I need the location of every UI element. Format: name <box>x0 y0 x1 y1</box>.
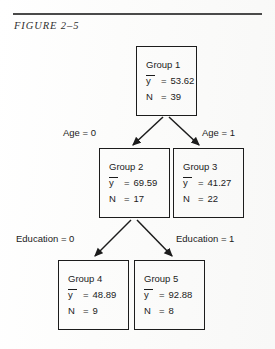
edge-label-education-1: Education = 1 <box>176 233 234 244</box>
equals-sign: = <box>83 306 89 316</box>
equals-sign: = <box>159 290 165 300</box>
node-group-4-title: Group 4 <box>68 274 102 284</box>
count-symbol: N <box>183 194 192 204</box>
node-group-4-n: N = 9 <box>68 306 98 316</box>
node-group-1[interactable]: Group 1 y = 53.62 N = 39 <box>136 46 197 116</box>
equals-sign: = <box>161 76 167 86</box>
node-group-1-n: N = 39 <box>146 92 181 102</box>
node-group-3-title: Group 3 <box>183 162 217 172</box>
edge-g2-g5 <box>137 220 172 256</box>
node-group-1-mean: y = 53.62 <box>146 76 194 86</box>
count-symbol: N <box>144 306 153 316</box>
mean-symbol: y <box>146 76 155 86</box>
node-group-1-mean-value: 53.62 <box>171 76 195 86</box>
equals-sign: = <box>124 178 130 188</box>
node-group-2-title: Group 2 <box>109 162 143 172</box>
equals-sign: = <box>159 306 165 316</box>
figure-page: FIGURE 2–5 Group 1 y = 53.62 N = 39 Grou… <box>0 0 275 349</box>
edge-g1-g2 <box>133 117 163 145</box>
equals-sign: = <box>161 92 167 102</box>
node-group-4-n-value: 9 <box>93 306 98 316</box>
edge-label-age-0: Age = 0 <box>63 127 96 138</box>
node-group-2[interactable]: Group 2 y = 69.59 N = 17 <box>99 148 170 218</box>
node-group-5-n: N = 8 <box>144 306 174 316</box>
edge-label-education-0: Education = 0 <box>16 233 74 244</box>
edge-label-age-1: Age = 1 <box>202 127 235 138</box>
mean-symbol: y <box>68 290 77 300</box>
node-group-5[interactable]: Group 5 y = 92.88 N = 8 <box>134 260 205 330</box>
count-symbol: N <box>146 92 155 102</box>
node-group-3-mean-value: 41.27 <box>208 178 232 188</box>
node-group-1-title: Group 1 <box>146 60 180 70</box>
node-group-4-mean: y = 48.89 <box>68 290 116 300</box>
node-group-5-n-value: 8 <box>169 306 174 316</box>
equals-sign: = <box>124 194 130 204</box>
node-group-2-n: N = 17 <box>109 194 144 204</box>
node-group-4[interactable]: Group 4 y = 48.89 N = 9 <box>58 260 129 330</box>
node-group-5-mean-value: 92.88 <box>169 290 193 300</box>
node-group-2-n-value: 17 <box>134 194 145 204</box>
node-group-3-n: N = 22 <box>183 194 218 204</box>
node-group-1-n-value: 39 <box>171 92 182 102</box>
mean-symbol: y <box>144 290 153 300</box>
node-group-3[interactable]: Group 3 y = 41.27 N = 22 <box>173 148 244 218</box>
mean-symbol: y <box>183 178 192 188</box>
figure-caption: FIGURE 2–5 <box>14 20 79 31</box>
mean-symbol: y <box>109 178 118 188</box>
node-group-2-mean-value: 69.59 <box>134 178 158 188</box>
node-group-5-title: Group 5 <box>144 274 178 284</box>
equals-sign: = <box>198 194 204 204</box>
node-group-3-mean: y = 41.27 <box>183 178 231 188</box>
node-group-4-mean-value: 48.89 <box>93 290 117 300</box>
figure-top-rule <box>13 13 262 15</box>
node-group-2-mean: y = 69.59 <box>109 178 157 188</box>
equals-sign: = <box>83 290 89 300</box>
edge-g1-g3 <box>169 117 199 145</box>
count-symbol: N <box>68 306 77 316</box>
edge-g2-g4 <box>95 220 131 256</box>
node-group-5-mean: y = 92.88 <box>144 290 192 300</box>
node-group-3-n-value: 22 <box>208 194 219 204</box>
count-symbol: N <box>109 194 118 204</box>
equals-sign: = <box>198 178 204 188</box>
